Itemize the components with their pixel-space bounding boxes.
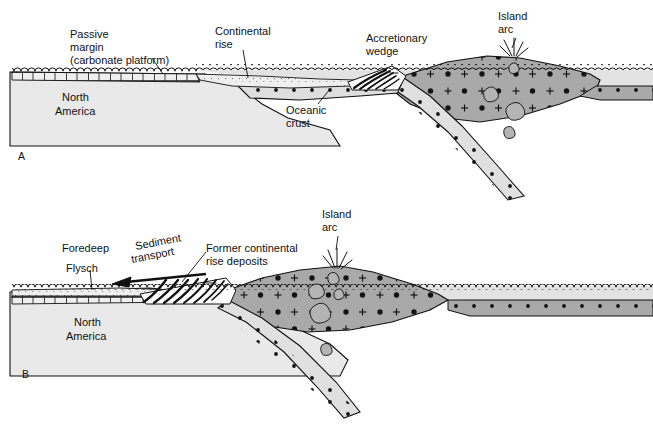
- label-island-arc-a-line2: arc: [498, 23, 514, 35]
- label-former-rise-line2: rise deposits: [206, 255, 268, 267]
- label-passive-margin-line2: margin: [70, 41, 104, 53]
- panel-b: Foredeep Flysch Sediment transport Forme…: [10, 208, 653, 418]
- carbonate-platform-a: [12, 72, 200, 82]
- back-arc-crust-a-texture: [596, 86, 653, 100]
- label-island-arc-a-line1: Island: [498, 10, 527, 22]
- sea-surface-a-shelf: [12, 66, 198, 72]
- label-north-america-a-line2: America: [55, 105, 96, 117]
- panel-label-b: B: [22, 368, 29, 380]
- label-passive-margin-line1: Passive: [70, 28, 109, 40]
- label-flysch: Flysch: [66, 262, 98, 274]
- label-north-america-a-line1: North: [62, 91, 89, 103]
- label-north-america-b-line2: America: [66, 330, 107, 342]
- label-oceanic-crust-line1: Oceanic: [286, 104, 327, 116]
- volcano-plume-b: [323, 248, 352, 269]
- label-island-arc-b-line2: arc: [322, 221, 338, 233]
- label-accretionary-wedge-line2: wedge: [365, 45, 398, 57]
- label-accretionary-wedge-line1: Accretionary: [366, 32, 428, 44]
- label-island-arc-b-line1: Island: [322, 208, 351, 220]
- volcano-plume-a: [500, 38, 528, 57]
- label-continental-rise-line1: Continental: [215, 25, 271, 37]
- geology-cross-section-diagram: Passive margin (carbonate platform) Cont…: [0, 0, 653, 424]
- panel-label-a: A: [18, 150, 25, 162]
- label-foredeep: Foredeep: [62, 242, 109, 254]
- label-passive-margin-line3: (carbonate platform): [70, 54, 169, 66]
- label-oceanic-crust-line2: crust: [286, 117, 310, 129]
- panel-a: Passive margin (carbonate platform) Cont…: [10, 10, 653, 200]
- label-north-america-b-line1: North: [74, 316, 101, 328]
- label-continental-rise-line2: rise: [215, 38, 233, 50]
- label-former-rise-line1: Former continental: [206, 242, 298, 254]
- leader-former-rise: [182, 252, 206, 282]
- sea-surface-a: [196, 64, 653, 70]
- figure-root: Passive margin (carbonate platform) Cont…: [0, 0, 653, 424]
- back-arc-crust-b-texture: [448, 300, 653, 316]
